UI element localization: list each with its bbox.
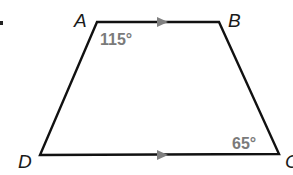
angle-a-measure: 115° <box>100 31 132 48</box>
vertex-label-a: A <box>73 10 87 31</box>
vertex-label-c: C <box>285 151 293 172</box>
parallel-arrow-icon-top <box>157 17 168 27</box>
parallel-arrow-icon-bottom <box>157 150 168 160</box>
angle-c-measure: 65° <box>232 135 256 152</box>
bullet-dot <box>0 21 3 25</box>
vertex-label-d: D <box>18 151 32 172</box>
trapezoid-diagram: A B C D 115° 65° <box>0 0 293 175</box>
vertex-label-b: B <box>228 10 241 31</box>
